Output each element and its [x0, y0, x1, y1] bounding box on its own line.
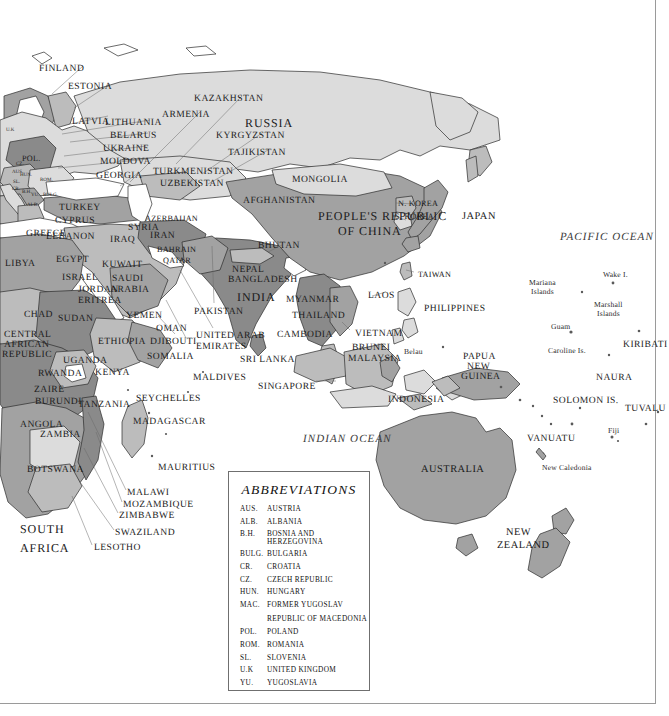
map-label-laos: LAOS: [368, 291, 395, 301]
map-label-djibouti: DJIBOUTI: [150, 337, 197, 347]
map-label-brunei: BRUNEI: [352, 343, 390, 353]
map-label-russia: RUSSIA: [245, 117, 293, 129]
abbreviation-code: B.H.: [240, 530, 267, 545]
map-label-emirates: EMIRATES: [196, 342, 247, 352]
map-label-new: NEW: [506, 528, 531, 539]
map-label-qatar: QATAR: [163, 257, 191, 265]
map-label-indonesia: INDONESIA: [388, 395, 444, 405]
map-label-rwanda: RWANDA: [38, 369, 82, 379]
map-label-lithuania: LITHUANIA: [105, 118, 162, 128]
abbreviation-code: SL.: [240, 654, 267, 661]
map-abbrev-marker-sl: SL.: [13, 180, 20, 185]
map-label-south: SOUTH: [20, 523, 65, 535]
map-island-label-islands: Islands: [531, 288, 554, 296]
map-label-mongolia: MONGOLIA: [292, 175, 348, 185]
abbreviations-title: ABBREVIATIONS: [229, 482, 369, 498]
abbreviation-name: AUSTRIA: [267, 505, 369, 512]
map-island-label-islands: Islands: [597, 310, 620, 318]
abbreviation-row: B.H.BOSNIA AND HERZEGOVINA: [229, 530, 369, 545]
map-ocean-label-indian-ocean: INDIAN OCEAN: [303, 434, 392, 445]
abbreviation-code: CZ.: [240, 576, 267, 583]
abbreviation-name: BOSNIA AND HERZEGOVINA: [267, 530, 369, 545]
map-label-malaysia: MALAYSIA: [348, 354, 401, 364]
map-label-iran: IRAN: [150, 231, 175, 241]
abbreviation-row: ALB.ALBANIA: [229, 518, 369, 525]
map-label-mauritius: MAURITIUS: [158, 463, 215, 473]
abbreviation-row: POL.POLAND: [229, 628, 369, 635]
map-label-singapore: SINGAPORE: [258, 382, 316, 392]
map-label-bhutan: BHUTAN: [258, 241, 300, 251]
map-island-label-guam: Guam: [551, 323, 570, 331]
abbreviation-row: CZ.CZECH REPUBLIC: [229, 576, 369, 583]
map-label-tanzania: TANZANIA: [78, 400, 130, 410]
map-label-jordan: JORDAN: [78, 285, 119, 295]
map-abbrev-marker-u-k: U.K: [6, 128, 14, 133]
map-label-belarus: BELARUS: [110, 131, 157, 141]
abbreviation-name: CZECH REPUBLIC: [267, 576, 369, 583]
map-abbrev-marker-cr: CR.: [12, 187, 20, 192]
map-label-pakistan: PAKISTAN: [194, 307, 243, 317]
map-label-swaziland: SWAZILAND: [115, 528, 175, 538]
map-label-taiwan: TAIWAN: [418, 271, 451, 279]
map-label-australia: AUSTRALIA: [421, 465, 484, 476]
map-label-malawi: MALAWI: [127, 488, 169, 498]
map-label-maldives: MALDIVES: [193, 373, 246, 383]
map-label-saudi: SAUDI: [112, 274, 144, 284]
map-island-label-new-caledonia: New Caledonia: [542, 464, 592, 472]
map-label-bahrain: BAHRAIN: [157, 246, 196, 254]
map-label-zimbabwe: ZIMBABWE: [119, 511, 175, 521]
map-label-africa: AFRICA: [20, 542, 69, 554]
map-island-label-fiji: Fiji: [608, 427, 619, 435]
map-island-label-mariana: Mariana: [529, 279, 556, 287]
abbreviation-code: YU.: [240, 679, 267, 686]
map-label-lebanon: LEBANON: [46, 232, 95, 242]
map-island-label-belau: Belau: [404, 348, 423, 356]
map-label-india: INDIA: [237, 291, 276, 303]
map-label-turkey: TURKEY: [59, 203, 101, 213]
map-island-label-wake-i: Wake I.: [603, 271, 628, 279]
map-label-madagascar: MADAGASCAR: [133, 417, 206, 427]
abbreviation-code: AUS.: [240, 505, 267, 512]
abbreviation-row: MAC.FORMER YUGOSLAV: [229, 601, 369, 608]
abbreviation-code: U.K: [240, 666, 267, 673]
map-label-israel: ISRAEL: [62, 273, 98, 283]
map-abbrev-marker-alb: ALB.: [27, 203, 38, 208]
map-label-japan: JAPAN: [462, 212, 496, 223]
map-label-bangladesh: BANGLADESH: [228, 275, 298, 285]
map-label-united-arab: UNITED ARAB: [196, 331, 265, 341]
map-label-pol: POL.: [22, 155, 41, 163]
abbreviation-code: MAC.: [240, 601, 267, 608]
abbreviation-name: ALBANIA: [267, 518, 369, 525]
map-label-uzbekistan: UZBEKISTAN: [160, 179, 224, 189]
map-label-cyprus: CYPRUS: [55, 216, 95, 226]
abbreviation-name: BULGARIA: [267, 550, 369, 557]
map-abbrev-marker-bulg: BULG.: [43, 193, 58, 198]
map-label-mozambique: MOZAMBIQUE: [123, 500, 194, 510]
map-label-thailand: THAILAND: [292, 311, 345, 321]
abbreviation-row: ROM.ROMANIA: [229, 641, 369, 648]
abbreviation-name: ROMANIA: [267, 641, 369, 648]
map-label-tajikistan: TAJIKISTAN: [228, 148, 286, 158]
map-label-iraq: IRAQ: [110, 235, 135, 245]
map-label-finland: FINLAND: [39, 64, 84, 74]
map-label-botswana: BOTSWANA: [27, 465, 84, 475]
abbreviation-code: CR.: [240, 563, 267, 570]
map-label-oman: OMAN: [156, 324, 187, 334]
abbreviation-row: U.KUNITED KINGDOM: [229, 666, 369, 673]
map-label-afghanistan: AFGHANISTAN: [243, 196, 315, 206]
map-label-ethiopia: ETHIOPIA: [98, 337, 146, 347]
map-label-kyrgyzstan: KYRGYZSTAN: [216, 131, 285, 141]
map-label-s-korea: S. KOREA: [395, 213, 434, 221]
map-ocean-label-pacific-ocean: PACIFIC OCEAN: [560, 232, 654, 243]
map-label-somalia: SOMALIA: [147, 352, 194, 362]
map-abbrev-marker-yu: YU.: [31, 193, 39, 198]
map-label-yemen: YEMEN: [126, 311, 162, 321]
map-label-lesotho: LESOTHO: [94, 543, 141, 553]
map-label-turkmenistan: TURKMENISTAN: [153, 167, 233, 177]
map-label-solomon-is: SOLOMON IS.: [553, 396, 619, 406]
abbreviation-name: UNITED KINGDOM: [267, 666, 369, 673]
abbreviation-code: HUN.: [240, 588, 267, 595]
map-label-naura: NAURA: [596, 373, 632, 383]
map-label-burundi: BURUNDI: [35, 397, 82, 407]
map-label-tuvalu: TUVALU: [625, 404, 666, 414]
